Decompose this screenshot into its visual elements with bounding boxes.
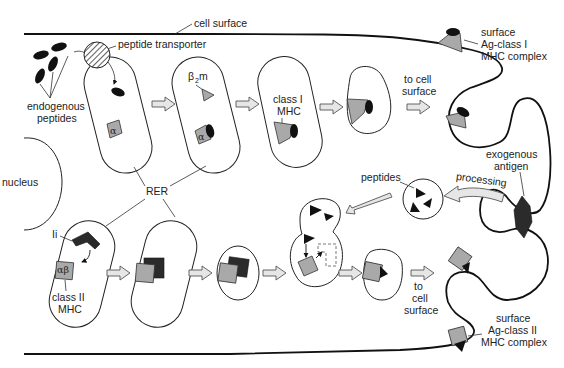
to-cell-surface-bottom-2: cell [412, 292, 428, 304]
nucleus-label: nucleus [2, 176, 38, 188]
flow-arrow [152, 97, 175, 111]
svg-text:α: α [198, 131, 205, 142]
rer-cisterna-class1-1 [78, 51, 157, 178]
rer-label: RER [146, 185, 169, 197]
class1-mhc-label-1: class I [273, 93, 303, 105]
to-cell-surface-top-1: to cell [404, 73, 431, 85]
processing-arrow [444, 186, 504, 202]
peptides-label: peptides [361, 171, 401, 183]
svg-text:αβ: αβ [57, 264, 69, 275]
endogenous-peptides-label-1: endogenous [27, 100, 85, 112]
flow-arrow [263, 266, 286, 280]
peptide-transporter-icon [84, 42, 110, 68]
surface-class1-label-1: surface [481, 26, 516, 38]
class2-mhc-label-2: MHC [58, 303, 82, 315]
surface-class1-label-3: MHC complex [481, 50, 548, 62]
svg-text:β: β [188, 70, 194, 82]
cell-surface-label: cell surface [194, 17, 247, 29]
peptide-transporter-label: peptide transporter [118, 38, 207, 50]
svg-text:m: m [199, 70, 208, 82]
flow-arrow [407, 100, 430, 114]
flow-arrow [346, 193, 392, 214]
class2-mhc-label-1: class II [52, 291, 85, 303]
processing-label: processing [456, 170, 508, 189]
surface-class2-label-2: Ag-class II [488, 324, 537, 336]
exogenous-antigen-label-2: antigen [494, 160, 529, 172]
endogenous-peptides [32, 41, 68, 98]
ii-label: Ii [52, 228, 57, 240]
surface-class1-label-2: Ag-class I [481, 38, 527, 50]
flow-arrow [236, 97, 259, 111]
endogenous-peptides-label-2: peptides [37, 112, 77, 124]
surface-class2-label-1: surface [496, 312, 531, 324]
flow-arrow [320, 100, 343, 114]
exogenous-antigen [514, 196, 532, 238]
svg-text:α: α [110, 125, 117, 136]
peptide-vesicle [403, 179, 443, 219]
to-cell-surface-top-2: surface [402, 85, 437, 97]
class1-mhc-label-2: MHC [277, 105, 301, 117]
to-cell-surface-bottom-3: surface [404, 304, 439, 316]
surface-class2-label-3: MHC complex [481, 336, 548, 348]
antigen-processing-diagram: cell surface peptide transporter endogen… [0, 0, 564, 368]
flow-arrow [411, 266, 434, 280]
to-cell-surface-bottom-1: to [414, 280, 423, 292]
exogenous-antigen-label-1: exogenous [486, 148, 537, 160]
flow-arrow [339, 266, 362, 280]
